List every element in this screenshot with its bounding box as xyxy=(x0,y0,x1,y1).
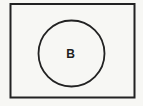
set-b-label: B xyxy=(66,47,75,61)
venn-diagram: B xyxy=(0,0,143,106)
venn-diagram-svg: B xyxy=(0,0,143,106)
